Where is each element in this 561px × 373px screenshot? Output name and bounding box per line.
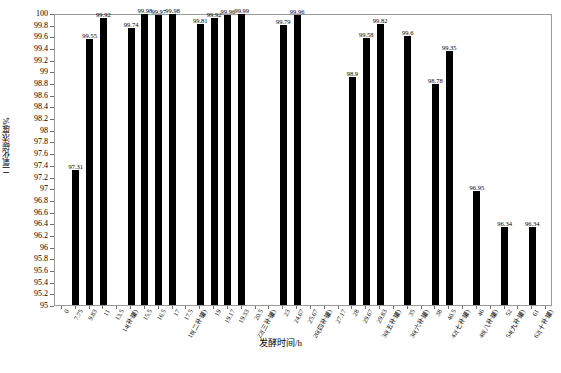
x-axis-tick-label-text: 28 — [351, 308, 360, 317]
bar — [128, 28, 135, 305]
y-axis-tick-label: 98.2 — [34, 115, 48, 123]
x-axis-tick-label-text: 20.5 — [252, 308, 264, 321]
bar-value-label: 99.82 — [373, 17, 388, 24]
y-axis-tick-label: 95.6 — [34, 267, 48, 275]
bar-value-label: 99.35 — [442, 44, 457, 51]
y-axis-tick-label: 99 — [40, 68, 48, 76]
plot-area: 97.3199.5599.9299.7499.9899.9799.9899.81… — [54, 14, 552, 306]
x-axis-tick-label-text: 25.67 — [306, 308, 319, 324]
y-axis-tick-label: 97.6 — [34, 150, 48, 158]
y-axis-tick-label: 95.2 — [34, 290, 48, 298]
bar — [349, 77, 356, 305]
bar — [72, 170, 79, 305]
bar — [155, 15, 162, 305]
bar-value-label: 97.31 — [68, 163, 83, 170]
y-axis-tick-label: 96.2 — [34, 232, 48, 240]
bar-value-label: 99.92 — [207, 11, 222, 18]
x-axis-tick-label-text: 61 — [531, 308, 540, 317]
y-axis-tick-label: 98.4 — [34, 103, 48, 111]
y-axis-tick-label: 98.6 — [34, 92, 48, 100]
x-axis-tick-label-text: 27.17 — [333, 308, 346, 324]
x-axis-tick-label-text: 19 — [213, 308, 222, 317]
bar — [404, 36, 411, 305]
x-axis-tick-label-text: 19.17 — [223, 308, 236, 324]
y-axis-tick-label: 96.8 — [34, 197, 48, 205]
y-axis-tick-label: 99.2 — [34, 57, 48, 65]
co2-concentration-bar-chart: 二氧化碳浓度/% 10099.899.699.499.29998.898.698… — [0, 0, 561, 373]
y-axis-tick-label: 95 — [40, 302, 48, 310]
bar-value-label: 99.92 — [96, 11, 111, 18]
bar-value-label: 99.58 — [359, 31, 374, 38]
y-axis-tick-label: 98.8 — [34, 80, 48, 88]
y-axis-tick-label: 99.6 — [34, 33, 48, 41]
x-axis-tick-label-text: 11 — [102, 308, 111, 317]
bar — [446, 51, 453, 305]
bar-value-label: 98.9 — [347, 70, 358, 77]
bar-value-label: 99.55 — [82, 32, 97, 39]
bar-value-label: 99.96 — [290, 8, 305, 15]
bar — [141, 14, 148, 305]
x-axis-tick-label-text: 7.75 — [72, 308, 84, 321]
bar-value-label: 99.99 — [234, 7, 249, 14]
bar — [294, 15, 301, 305]
bar-value-label: 99.81 — [193, 17, 208, 24]
x-axis-tick-label-text: 17.5 — [183, 308, 195, 321]
y-axis-tick-label: 100 — [36, 10, 48, 18]
y-axis-tick-label: 99.4 — [34, 45, 48, 53]
x-axis-tick-label-text: 46 — [476, 308, 485, 317]
x-axis-tick-label-text: 38 — [434, 308, 443, 317]
x-axis-tick-label-text: 52 — [503, 308, 512, 317]
bar — [224, 15, 231, 305]
bar-value-label: 96.34 — [497, 220, 512, 227]
y-axis-tick-label: 96.6 — [34, 209, 48, 217]
bar — [238, 14, 245, 305]
bar — [100, 18, 107, 305]
bar — [197, 24, 204, 305]
x-axis-tick-label-text: 0 — [62, 308, 70, 314]
bar — [211, 18, 218, 305]
bar-value-label: 99.98 — [138, 7, 153, 14]
x-axis-title: 发酵时间/h — [0, 338, 561, 348]
bar-value-label: 99.97 — [151, 8, 166, 15]
y-axis-tick-label: 97 — [40, 185, 48, 193]
y-axis-tick-label: 96.4 — [34, 220, 48, 228]
bar-value-label: 99.98 — [165, 7, 180, 14]
x-axis-tick-label-text: 15.5 — [141, 308, 153, 321]
x-axis-tick-label-text: 40.5 — [446, 308, 458, 321]
bar-value-label: 99.79 — [276, 18, 291, 25]
y-axis-tick-label: 97.2 — [34, 174, 48, 182]
x-axis-tick-label-text: 9.83 — [86, 308, 98, 321]
y-axis-tick-label: 96 — [40, 244, 48, 252]
x-axis-tick-label-text: 29.83 — [375, 308, 388, 324]
x-axis-tick-label-text: 17 — [171, 308, 180, 317]
bar-value-label: 96.34 — [525, 220, 540, 227]
y-axis-tick-label: 99.8 — [34, 22, 48, 30]
x-axis-tick-label-text: 16.5 — [155, 308, 167, 321]
bar-value-label: 99.96 — [221, 8, 236, 15]
x-axis-tick-label-text: 23 — [282, 308, 291, 317]
bar — [169, 14, 176, 305]
bar-value-label: 96.95 — [470, 184, 485, 191]
y-axis-tick-label: 98 — [40, 127, 48, 135]
bar — [432, 84, 439, 305]
x-axis-tick-label-text: 13.5 — [114, 308, 126, 321]
bar-value-label: 98.78 — [428, 77, 443, 84]
y-axis-tick-label: 95.4 — [34, 279, 48, 287]
y-axis-tick-label: 97.4 — [34, 162, 48, 170]
x-axis-tick-label-text: 29.67 — [361, 308, 374, 324]
bar-value-label: 99.74 — [124, 21, 139, 28]
y-axis: 10099.899.699.499.29998.898.698.498.2989… — [0, 14, 54, 306]
y-axis-tick-label: 95.8 — [34, 255, 48, 263]
bar — [280, 25, 287, 305]
bar — [363, 38, 370, 305]
bar — [86, 39, 93, 305]
bar — [377, 24, 384, 305]
y-axis-tick-label: 97.8 — [34, 138, 48, 146]
x-axis-tick-label-text: 35 — [407, 308, 416, 317]
x-axis-tick-label-text: 24.67 — [292, 308, 305, 324]
bar-value-label: 99.6 — [402, 29, 413, 36]
x-axis-tick-label-text: 19.33 — [236, 308, 249, 324]
